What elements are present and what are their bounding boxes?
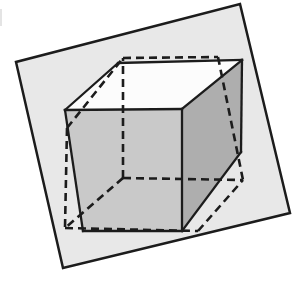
solid-cube-edge-right-back: [241, 60, 242, 152]
solid-cube-edge-front-top: [65, 109, 182, 110]
scan-artifact: [0, 9, 2, 26]
cube-rotation-diagram: [0, 0, 300, 281]
geometry-figure: [0, 0, 300, 281]
